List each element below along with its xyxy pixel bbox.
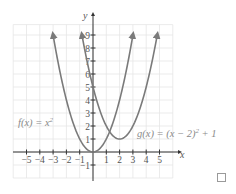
x-axis-label: x	[179, 149, 185, 160]
svg-text:3: 3	[85, 109, 90, 119]
svg-text:−2: −2	[61, 155, 71, 165]
f-function-label: f(x) = x2	[18, 116, 54, 129]
answer-checkbox[interactable]	[217, 173, 226, 182]
svg-text:−4: −4	[35, 155, 45, 165]
svg-text:4: 4	[144, 155, 149, 165]
svg-text:4: 4	[85, 96, 90, 106]
svg-text:9: 9	[85, 31, 90, 41]
svg-text:−5: −5	[21, 155, 31, 165]
g-function-label: g(x) = (x − 2)2 + 1	[137, 127, 217, 140]
svg-text:5: 5	[85, 83, 90, 93]
svg-text:5: 5	[157, 155, 162, 165]
svg-text:2: 2	[117, 155, 122, 165]
svg-text:−1: −1	[80, 161, 90, 171]
svg-text:−3: −3	[48, 155, 58, 165]
svg-text:1: 1	[85, 135, 90, 145]
y-axis-label: y	[82, 10, 88, 21]
graph: −5−4−3−2−112345−1123456789 x y f(x) = x2…	[0, 0, 236, 194]
svg-text:1: 1	[104, 155, 109, 165]
svg-text:3: 3	[131, 155, 136, 165]
svg-text:2: 2	[85, 122, 90, 132]
